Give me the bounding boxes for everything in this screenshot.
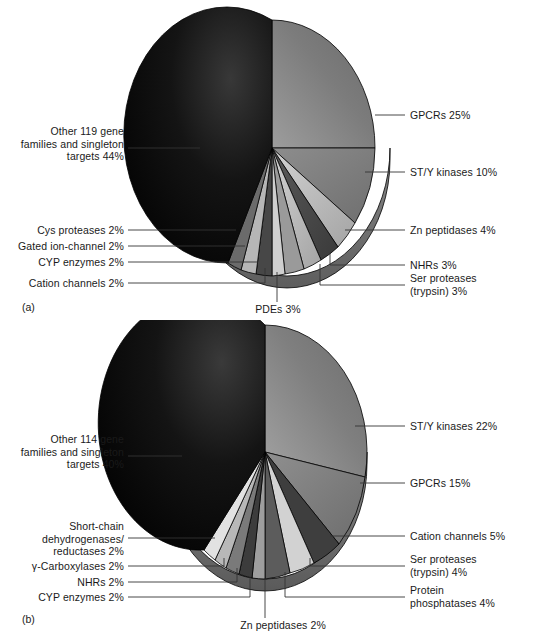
label-ser-proteases-a: Ser proteases (trypsin) 3% <box>410 272 533 297</box>
label-other-line2: families and singleton <box>0 446 124 459</box>
label-ser-proteases-line2: (trypsin) 3% <box>410 285 533 298</box>
label-protein-phosphatases-line2: phosphatases 4% <box>410 597 533 610</box>
pie-chart-panel-b: Other 114 gene families and singleton ta… <box>0 320 533 639</box>
label-other-line1: Other 114 gene <box>0 433 124 446</box>
label-ser-proteases-line1: Ser proteases <box>410 553 533 566</box>
panel-caption-a: (a) <box>22 301 35 313</box>
label-sty-kinases-a: ST/Y kinases 10% <box>410 166 533 179</box>
label-cys-proteases-a: Cys proteases 2% <box>0 224 124 237</box>
label-nhrs-a: NHRs 3% <box>410 259 533 272</box>
label-cation-channels-b: Cation channels 5% <box>410 530 533 543</box>
label-cyp-enzymes-a: CYP enzymes 2% <box>0 256 124 269</box>
label-ser-proteases-b: Ser proteases (trypsin) 4% <box>410 553 533 578</box>
slice-sty-kinases <box>265 325 367 477</box>
label-other-line2: families and singleton <box>0 138 124 151</box>
label-short-chain-dehydrogenases-b: Short-chain dehydrogenases/ reductases 2… <box>0 520 124 558</box>
label-cation-channels-a: Cation channels 2% <box>0 277 124 290</box>
panel-caption-b: (b) <box>22 613 35 625</box>
label-protein-phosphatases-line1: Protein <box>410 584 533 597</box>
label-ser-proteases-line2: (trypsin) 4% <box>410 566 533 579</box>
label-other-line3: targets 44% <box>0 150 124 163</box>
label-other-gene-families-a: Other 119 gene families and singleton ta… <box>0 125 124 163</box>
label-protein-phosphatases-b: Protein phosphatases 4% <box>410 584 533 609</box>
label-gamma-carboxylases-b: γ-Carboxylases 2% <box>0 560 124 573</box>
label-short-chain-line2: dehydrogenases/ <box>0 533 124 546</box>
label-pdes-a: PDEs 3% <box>236 303 320 316</box>
label-other-gene-families-b: Other 114 gene families and singleton ta… <box>0 433 124 471</box>
pie-b-slices <box>98 320 367 579</box>
label-sty-kinases-b: ST/Y kinases 22% <box>410 420 533 433</box>
label-gated-ion-channel-a: Gated ion-channel 2% <box>0 240 124 253</box>
label-short-chain-line3: reductases 2% <box>0 545 124 558</box>
label-ser-proteases-line1: Ser proteases <box>410 272 533 285</box>
label-gpcrs-a: GPCRs 25% <box>410 109 533 122</box>
label-other-line1: Other 119 gene <box>0 125 124 138</box>
label-other-line3: targets 40% <box>0 458 124 471</box>
slice-gpcrs <box>272 20 375 148</box>
label-gpcrs-b: GPCRs 15% <box>410 477 533 490</box>
label-zn-peptidases-a: Zn peptidases 4% <box>410 224 533 237</box>
pie-a-slices <box>124 7 375 276</box>
label-zn-peptidases-b: Zn peptidases 2% <box>223 619 343 632</box>
label-nhrs-b: NHRs 2% <box>0 576 124 589</box>
label-cyp-enzymes-b: CYP enzymes 2% <box>0 591 124 604</box>
label-short-chain-line1: Short-chain <box>0 520 124 533</box>
pie-chart-panel-a: Other 119 gene families and singleton ta… <box>0 0 533 320</box>
